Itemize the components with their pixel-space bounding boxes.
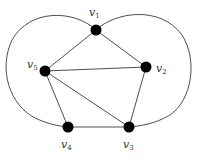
node-v5 <box>40 66 51 77</box>
label-v5: v5 <box>27 58 38 72</box>
edge-v2-v3 <box>129 67 146 127</box>
graph-diagram: v1 v2 v3 v4 v5 <box>0 0 203 163</box>
label-v1: v1 <box>89 6 100 20</box>
label-v2: v2 <box>156 62 167 76</box>
label-v4: v4 <box>61 138 72 152</box>
node-v2 <box>141 62 152 73</box>
label-v3: v3 <box>123 138 134 152</box>
edge-v5-v3 <box>45 71 129 127</box>
edge-v5-v2 <box>45 67 146 71</box>
edge-v1-v5 <box>45 30 96 71</box>
node-v1 <box>91 25 102 36</box>
node-v4 <box>63 122 74 133</box>
node-v3 <box>124 122 135 133</box>
edge-v1-v2 <box>96 30 146 67</box>
edge-v5-v4 <box>45 71 68 127</box>
